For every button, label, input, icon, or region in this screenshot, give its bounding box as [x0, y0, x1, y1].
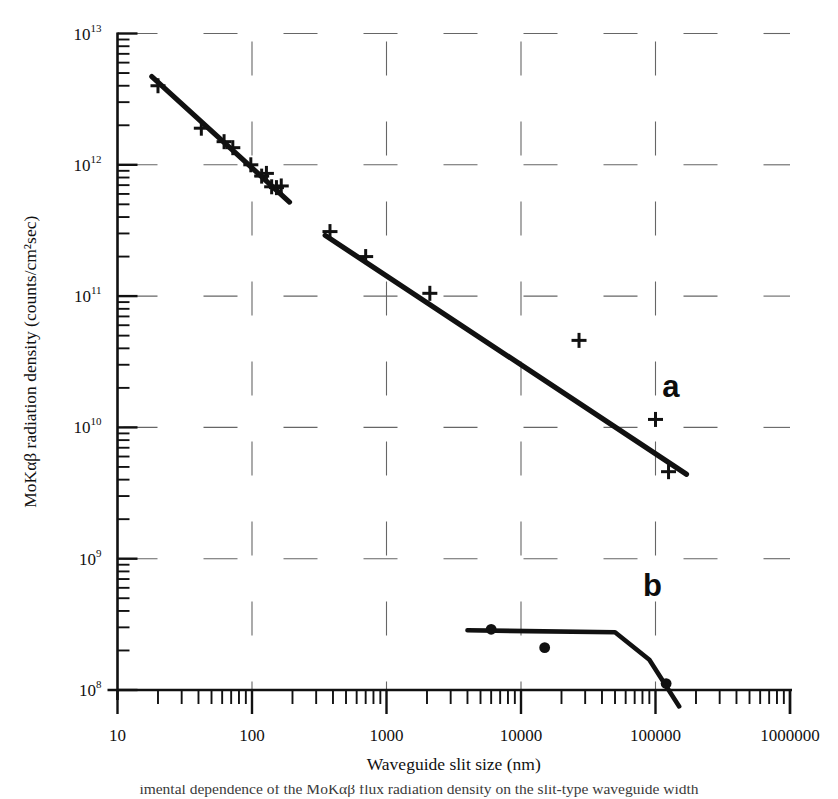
figure-container: 1013101210111010109108101001000100001000…	[0, 0, 838, 799]
series-labels: ab	[643, 369, 680, 603]
data-point-marker-plus	[194, 121, 209, 136]
curve-label-a: a	[662, 369, 680, 404]
x-axis-tick-label: 10000	[500, 726, 543, 745]
y-axis-tick-label: 1013	[74, 22, 103, 44]
y-axis-tick-exponent: 12	[91, 153, 102, 165]
data-series-layer	[150, 77, 686, 707]
data-point-marker-circle	[539, 642, 550, 653]
x-axis-tick-label: 1000000	[760, 726, 820, 745]
trend-line-a	[325, 235, 686, 474]
y-axis-title: MoKαβ radiation density (counts/cm²sec)	[20, 216, 40, 508]
y-axis-tick-exponent: 8	[96, 678, 102, 690]
x-axis-tick-label: 1000	[370, 726, 404, 745]
y-axis-tick-label: 108	[79, 678, 102, 700]
y-axis-tick-exponent: 9	[96, 547, 102, 559]
y-axis-tick-label: 1010	[74, 415, 103, 437]
y-axis-tick-label: 1012	[74, 153, 102, 175]
y-axis-tick-label: 1011	[74, 284, 102, 306]
data-point-marker-plus	[648, 412, 663, 427]
y-axis-tick-exponent: 10	[91, 415, 103, 427]
trend-line-a	[152, 77, 290, 203]
x-axis-tick-label: 10	[109, 726, 126, 745]
data-point-marker-plus	[572, 333, 587, 348]
y-axis-tick-exponent: 13	[91, 22, 103, 34]
data-point-marker-circle	[661, 678, 672, 689]
data-point-marker-circle	[486, 624, 497, 635]
axis-tick-labels: 1013101210111010109108101001000100001000…	[74, 22, 820, 746]
y-axis-tick-label: 109	[79, 547, 102, 569]
figure-caption: imental dependence of the MoKαβ flux rad…	[0, 785, 838, 799]
x-axis-title: Waveguide slit size (nm)	[367, 754, 541, 774]
figure-caption-text: imental dependence of the MoKαβ flux rad…	[0, 785, 838, 799]
curve-label-b: b	[643, 568, 662, 603]
data-point-marker-plus	[358, 249, 373, 264]
x-axis-tick-label: 100	[239, 726, 265, 745]
x-axis-tick-label: 100000	[630, 726, 681, 745]
log-log-scatter-chart: 1013101210111010109108101001000100001000…	[0, 0, 838, 799]
grid-layer	[118, 34, 791, 691]
y-axis-tick-exponent: 11	[91, 284, 102, 296]
